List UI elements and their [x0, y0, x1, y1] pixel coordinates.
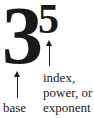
exponent-label-line-1: index, [43, 70, 75, 85]
base-number: 3 [2, 6, 42, 66]
exponent-number: 5 [38, 2, 59, 36]
base-arrow-icon [17, 75, 18, 98]
base-label: base [3, 100, 26, 115]
exponent-arrow-icon [49, 44, 50, 66]
exponent-label-line-2: power, or [43, 85, 92, 100]
exponent-label-line-3: exponent [43, 100, 91, 115]
